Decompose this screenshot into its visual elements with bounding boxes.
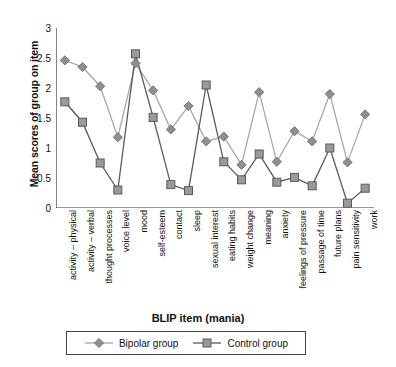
chart-container: Mean scores of group on item 00.511.522.… bbox=[0, 0, 396, 367]
plot-area: 00.511.522.53 bbox=[56, 28, 374, 208]
data-point-marker bbox=[361, 184, 369, 192]
y-axis-tick-label: 0.5 bbox=[37, 173, 51, 184]
y-axis-tick-label: 2 bbox=[45, 83, 51, 94]
x-axis-category-label: weight change bbox=[245, 210, 255, 268]
data-point-marker bbox=[291, 173, 299, 181]
data-point-marker bbox=[343, 158, 352, 167]
x-axis-category-label: sleep bbox=[192, 210, 202, 232]
data-point-marker bbox=[185, 187, 193, 195]
series-line-bipolar-group bbox=[65, 60, 365, 164]
legend-diamond-icon bbox=[84, 337, 114, 349]
legend-item: Bipolar group bbox=[84, 337, 178, 349]
x-axis-category-label: activity – physical bbox=[68, 210, 78, 280]
data-point-marker bbox=[273, 178, 281, 186]
data-point-marker bbox=[202, 81, 210, 89]
data-point-marker bbox=[167, 181, 175, 189]
data-point-marker bbox=[149, 86, 158, 95]
chart-legend: Bipolar groupControl group bbox=[66, 331, 306, 355]
x-axis-category-label: pain sensitivity bbox=[351, 210, 361, 269]
data-point-marker bbox=[325, 89, 334, 98]
y-axis-tick-label: 2.5 bbox=[37, 53, 51, 64]
x-axis-category-label: thought processes bbox=[104, 210, 114, 284]
data-point-marker bbox=[113, 133, 122, 142]
legend-item: Control group bbox=[192, 337, 288, 349]
y-axis-tick-label: 1.5 bbox=[37, 113, 51, 124]
data-point-marker bbox=[132, 50, 140, 58]
y-axis-tick-label: 0 bbox=[45, 203, 51, 214]
data-point-marker bbox=[149, 113, 157, 121]
data-point-marker bbox=[60, 56, 69, 65]
data-point-marker bbox=[290, 127, 299, 136]
x-axis-category-label: sexual interest bbox=[210, 210, 220, 268]
x-axis-category-label: passage of time bbox=[316, 210, 326, 274]
data-point-marker bbox=[61, 98, 69, 106]
data-point-marker bbox=[255, 150, 263, 158]
x-axis-category-label: eating habits bbox=[227, 210, 237, 261]
data-point-marker bbox=[202, 137, 211, 146]
y-axis-tick-label: 1 bbox=[45, 143, 51, 154]
x-axis-category-label: meaning bbox=[263, 210, 273, 245]
x-axis-category-label: contact bbox=[174, 210, 184, 239]
data-point-marker bbox=[114, 186, 122, 194]
data-point-marker bbox=[79, 118, 87, 126]
data-point-marker bbox=[326, 144, 334, 152]
data-point-marker bbox=[238, 176, 246, 184]
x-axis-category-label: future plans bbox=[333, 210, 343, 257]
x-axis-category-label: activity – verbal bbox=[86, 210, 96, 272]
legend-label: Control group bbox=[227, 338, 288, 349]
y-axis-tick-label: 3 bbox=[45, 23, 51, 34]
data-point-marker bbox=[219, 132, 228, 141]
x-axis-category-label: mood bbox=[139, 210, 149, 233]
data-point-marker bbox=[96, 159, 104, 167]
x-axis-category-label: self-esteem bbox=[157, 210, 167, 257]
data-point-marker bbox=[203, 339, 211, 347]
x-axis-tick-labels: activity – physicalactivity – verbalthou… bbox=[56, 210, 374, 315]
legend-label: Bipolar group bbox=[119, 338, 178, 349]
data-point-marker bbox=[272, 157, 281, 166]
x-axis-category-label: anxiety bbox=[280, 210, 290, 239]
legend-square-icon bbox=[192, 337, 222, 349]
data-point-marker bbox=[237, 160, 246, 169]
data-point-marker bbox=[220, 158, 228, 166]
chart-svg bbox=[56, 28, 374, 208]
data-point-marker bbox=[308, 137, 317, 146]
data-point-marker bbox=[361, 110, 370, 119]
x-axis-category-label: feelings of pressure bbox=[298, 210, 308, 289]
x-axis-category-label: work bbox=[369, 210, 379, 229]
series-line-control-group bbox=[65, 54, 365, 203]
data-point-marker bbox=[94, 338, 103, 347]
data-point-marker bbox=[308, 182, 316, 190]
data-point-marker bbox=[344, 199, 352, 207]
x-axis-title: BLIP item (mania) bbox=[0, 312, 396, 324]
x-axis-category-label: voice level bbox=[121, 210, 131, 252]
data-point-marker bbox=[255, 88, 264, 97]
